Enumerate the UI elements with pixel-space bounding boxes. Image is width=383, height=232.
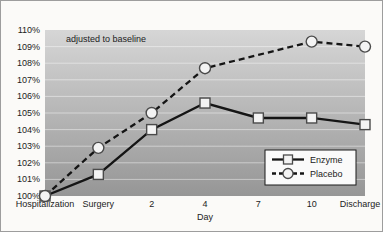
y-axis-tick-label: 104% — [17, 125, 40, 135]
placebo-circle-marker — [360, 41, 371, 52]
placebo-circle-marker — [40, 191, 51, 202]
legend-placebo-circle-marker — [283, 169, 293, 179]
enzyme-square-marker — [200, 98, 210, 108]
placebo-circle-marker — [200, 63, 211, 74]
x-axis-tick-label: Discharge — [340, 199, 381, 209]
x-axis-tick-label: 4 — [202, 199, 207, 209]
y-axis-tick-label: 105% — [17, 108, 40, 118]
y-axis-tick-label: 101% — [17, 174, 40, 184]
enzyme-square-marker — [93, 169, 103, 179]
annotation-adjusted-to-baseline: adjusted to baseline — [66, 34, 146, 44]
placebo-circle-marker — [93, 142, 104, 153]
enzyme-square-marker — [147, 125, 157, 135]
x-axis-title: Day — [197, 212, 214, 222]
y-axis-tick-label: 108% — [17, 58, 40, 68]
y-axis-tick-label: 103% — [17, 141, 40, 151]
enzyme-square-marker — [253, 113, 263, 123]
placebo-circle-marker — [146, 108, 157, 119]
line-chart: 100%101%102%103%104%105%106%107%108%109%… — [1, 1, 382, 231]
legend-enzyme-square-marker — [284, 155, 293, 164]
x-axis-tick-label: 2 — [149, 199, 154, 209]
legend-label-enzyme: Enzyme — [310, 155, 343, 165]
x-axis-tick-label: 7 — [256, 199, 261, 209]
legend-label-placebo: Placebo — [310, 169, 343, 179]
y-axis-tick-label: 102% — [17, 158, 40, 168]
y-axis-tick-label: 106% — [17, 91, 40, 101]
x-axis-tick-label: Surgery — [83, 199, 115, 209]
enzyme-square-marker — [360, 120, 370, 130]
placebo-circle-marker — [306, 36, 317, 47]
y-axis-tick-label: 109% — [17, 42, 40, 52]
figure-frame: 100%101%102%103%104%105%106%107%108%109%… — [0, 0, 383, 232]
y-axis-tick-label: 107% — [17, 75, 40, 85]
enzyme-square-marker — [307, 113, 317, 123]
x-axis-tick-label: 10 — [307, 199, 317, 209]
y-axis-tick-label: 110% — [18, 25, 40, 35]
